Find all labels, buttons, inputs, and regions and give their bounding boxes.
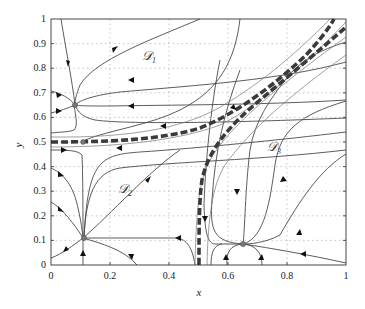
arrow-icon — [258, 254, 264, 260]
x-tick-0.6: 0.6 — [222, 270, 235, 281]
y-tick-0: 0 — [41, 259, 46, 270]
region-d1-subscript: 1 — [152, 56, 156, 65]
x-tick-1: 1 — [344, 270, 349, 281]
x-tick-0.8: 0.8 — [281, 270, 294, 281]
equilibrium-d1 — [72, 102, 77, 107]
y-tick-0.8: 0.8 — [34, 62, 47, 73]
arrow-icon — [223, 254, 229, 260]
arrow-icon — [296, 229, 302, 235]
arrow-icon — [145, 176, 151, 183]
equilibrium-d3 — [240, 241, 245, 246]
y-tick-1: 1 — [41, 13, 46, 24]
region-label-d3: 𝒟 3 — [267, 139, 281, 156]
x-axis-label: x — [196, 286, 202, 298]
arrow-icon — [61, 147, 67, 153]
saddle-point — [81, 140, 86, 145]
separatrices — [51, 19, 346, 265]
y-tick-0.1: 0.1 — [34, 234, 47, 245]
arrow-icon — [116, 145, 122, 151]
x-tick-0: 0 — [49, 270, 54, 281]
arrow-icon — [280, 176, 287, 182]
arrow-icon — [234, 189, 240, 195]
region-label-d1: 𝒟 1 — [142, 48, 156, 65]
arrow-icon — [63, 246, 69, 252]
y-tick-0.3: 0.3 — [34, 185, 47, 196]
y-tick-0.6: 0.6 — [34, 111, 47, 122]
y-tick-0.9: 0.9 — [34, 38, 47, 49]
region-d3-subscript: 3 — [276, 147, 281, 156]
arrow-icon — [56, 108, 62, 114]
region-label-d2: 𝒟 2 — [118, 181, 132, 198]
region-d2-subscript: 2 — [128, 189, 132, 198]
y-tick-0.5: 0.5 — [34, 136, 47, 147]
equilibrium-d2 — [81, 235, 86, 240]
x-tick-0.2: 0.2 — [104, 270, 117, 281]
arrow-icon — [80, 250, 86, 256]
arrow-icon — [128, 77, 134, 83]
x-tick-labels: 0 0.2 0.4 0.6 0.8 1 — [49, 270, 349, 281]
arrow-icon — [128, 103, 134, 109]
arrow-icon — [202, 216, 208, 222]
y-tick-0.7: 0.7 — [34, 87, 47, 98]
arrow-icon — [58, 206, 64, 212]
arrow-icon — [300, 251, 306, 257]
arrow-icon — [230, 104, 236, 110]
x-tick-0.4: 0.4 — [163, 270, 176, 281]
y-tick-labels: 0 0.1 0.2 0.3 0.4 0.5 0.6 0.7 0.8 0.9 1 — [34, 13, 47, 270]
arrow-icon — [112, 46, 118, 53]
y-tick-0.4: 0.4 — [34, 161, 47, 172]
y-axis-label: y — [12, 142, 24, 148]
arrow-icon — [58, 171, 64, 177]
y-tick-0.2: 0.2 — [34, 210, 47, 221]
phase-portrait-chart: 0 0.2 0.4 0.6 0.8 1 0 0.1 0.2 0.3 0.4 0.… — [0, 0, 365, 309]
